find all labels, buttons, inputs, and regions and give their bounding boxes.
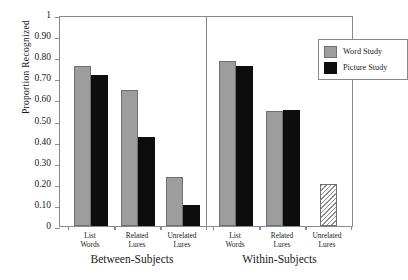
panel-label: Within-Subjects [205,254,355,266]
bar [219,61,236,226]
bar [166,177,183,226]
y-axis-tick-label: 0.50 [11,117,51,127]
x-axis-category-label: UnrelatedLures [299,231,355,250]
y-axis-tick [55,80,60,81]
legend-label: Word Study [343,48,382,56]
x-axis-tick [351,226,352,230]
category-label-line: Unrelated [154,231,210,240]
legend-item: Picture Study [324,60,407,76]
bar [236,66,253,226]
y-axis-tick [55,228,60,229]
x-axis-tick [260,226,261,230]
y-axis-tick [55,207,60,208]
category-label-line: Lures [154,240,210,249]
y-axis-tick-label: 0.80 [11,53,51,63]
bar [320,184,337,226]
category-label-line: Lures [299,240,355,249]
y-axis-tick [55,17,60,18]
y-axis-tick [55,144,60,145]
bar [266,111,283,226]
category-label-line: Unrelated [299,231,355,240]
y-axis-tick-label: 0.20 [11,180,51,190]
bar [138,137,155,226]
y-axis-tick [55,186,60,187]
y-axis-tick-label: 0.40 [11,138,51,148]
x-axis-tick [306,226,307,230]
y-axis-tick [55,59,60,60]
legend-swatch [324,46,337,58]
bar [183,205,200,226]
x-axis-tick [68,226,69,230]
legend-label: Picture Study [343,64,387,72]
y-axis-tick-label: 1 [11,11,51,21]
y-axis-tick-label: 0.30 [11,159,51,169]
x-axis-tick [213,226,214,230]
legend-item: Word Study [324,44,407,60]
y-axis-tick-label: 0 [11,222,51,232]
bar [91,75,108,226]
panel-divider [206,17,207,228]
y-axis-tick [55,165,60,166]
y-axis-tick-label: 0.60 [11,96,51,106]
bar [121,90,138,226]
y-axis-tick-label: 0.10 [11,201,51,211]
panel-label: Between-Subjects [57,254,207,266]
y-axis-tick [55,123,60,124]
x-axis-tick [115,226,116,230]
x-axis-tick [161,226,162,230]
bar [283,110,300,226]
plot-area: Word StudyPicture Study [59,16,353,227]
x-axis-category-label: UnrelatedLures [154,231,210,250]
y-axis-tick [55,101,60,102]
chart-legend: Word StudyPicture Study [318,39,408,80]
legend-swatch [324,62,337,74]
x-axis-tick [160,226,161,230]
x-axis-tick [206,226,207,230]
y-axis-tick-label: 0.90 [11,32,51,42]
y-axis-tick [55,38,60,39]
bar [74,66,91,226]
y-axis-tick-label: 0.70 [11,75,51,85]
x-axis-tick [305,226,306,230]
